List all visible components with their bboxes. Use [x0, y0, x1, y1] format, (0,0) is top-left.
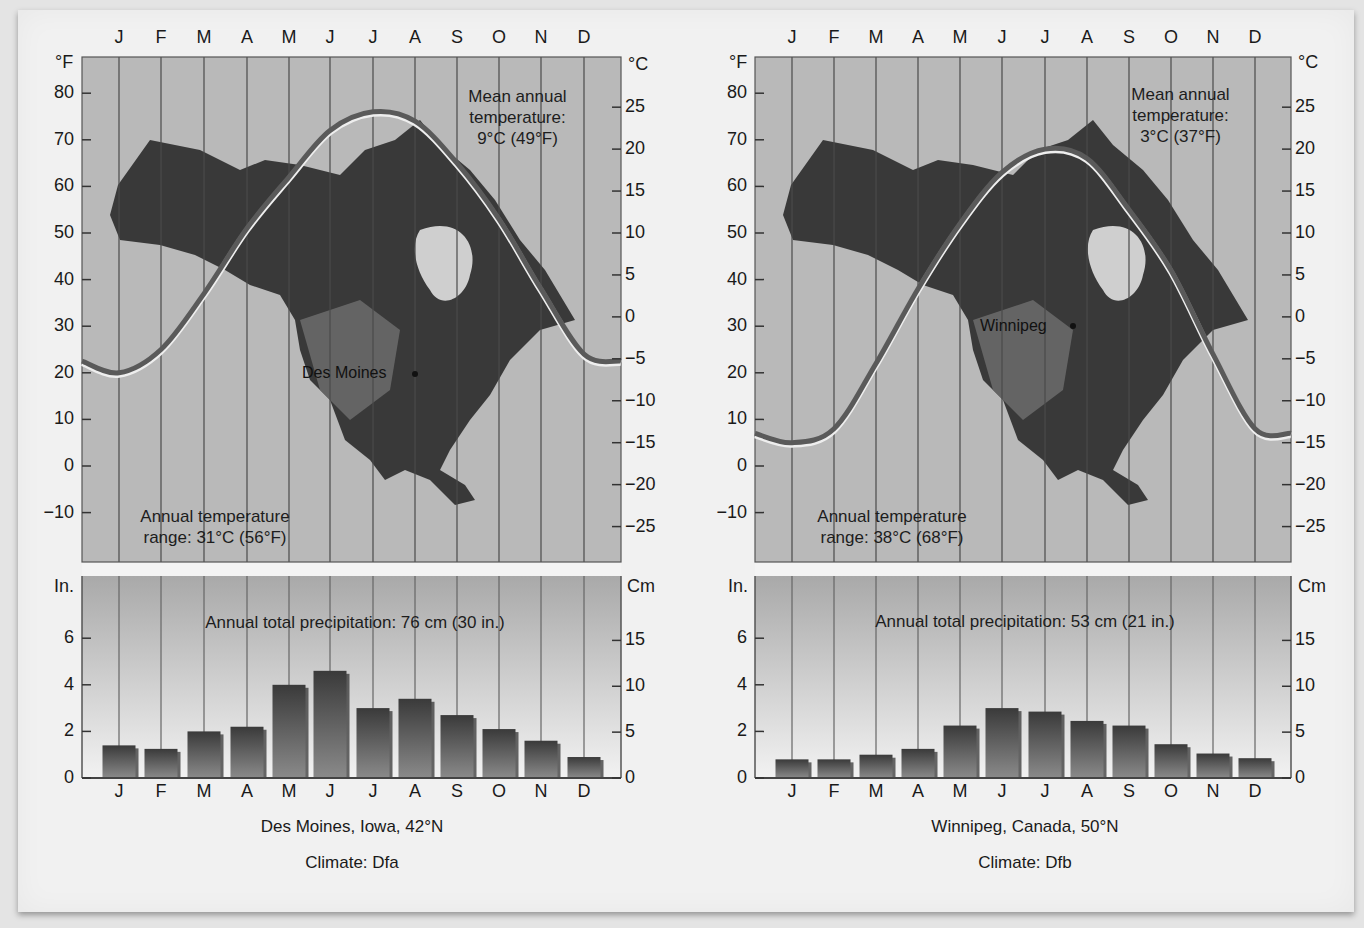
month-label-top: J	[990, 27, 1014, 48]
annual-temperature-range-label: Annual temperature range: 38°C (68°F)	[792, 506, 992, 548]
precipitation-bar	[776, 759, 809, 778]
month-label-top: O	[487, 27, 511, 48]
month-label-bottom: J	[107, 781, 131, 802]
temp-f-tick-label: 10	[34, 408, 74, 429]
precip-axis-unit-in: In.	[728, 576, 748, 597]
temp-c-tick-label: 5	[625, 264, 665, 285]
month-label-top: N	[529, 27, 553, 48]
temp-c-tick-label: 25	[625, 96, 665, 117]
month-label-bottom: M	[277, 781, 301, 802]
temp-f-tick-label: 60	[34, 175, 74, 196]
precip-in-tick-label: 6	[34, 627, 74, 648]
temp-f-tick-label: 70	[707, 129, 747, 150]
station-marker-icon	[1070, 323, 1076, 329]
month-label-bottom: O	[487, 781, 511, 802]
mean-annual-temperature-label: Mean annual temperature: 3°C (37°F)	[1103, 84, 1258, 147]
month-label-top: M	[948, 27, 972, 48]
month-label-bottom: J	[990, 781, 1014, 802]
precip-in-tick-label: 4	[707, 674, 747, 695]
month-label-top: J	[1033, 27, 1057, 48]
month-label-top: F	[149, 27, 173, 48]
temp-c-tick-label: −10	[625, 390, 665, 411]
temp-c-tick-label: 20	[1295, 138, 1335, 159]
precip-in-tick-label: 0	[707, 767, 747, 788]
precip-cm-tick-label: 0	[1295, 767, 1335, 788]
temp-c-tick-label: −25	[1295, 516, 1335, 537]
month-label-bottom: F	[822, 781, 846, 802]
temp-c-tick-label: −20	[1295, 474, 1335, 495]
temp-c-tick-label: −5	[1295, 348, 1335, 369]
month-label-bottom: D	[572, 781, 596, 802]
month-label-top: A	[403, 27, 427, 48]
temp-c-tick-label: −25	[625, 516, 665, 537]
temp-c-tick-label: 20	[625, 138, 665, 159]
temp-c-tick-label: 15	[1295, 180, 1335, 201]
temp-c-tick-label: −5	[625, 348, 665, 369]
temp-c-tick-label: 0	[625, 306, 665, 327]
month-label-top: D	[1243, 27, 1267, 48]
temp-f-tick-label: 20	[707, 362, 747, 383]
temp-f-tick-label: 10	[707, 408, 747, 429]
temp-f-tick-label: 80	[707, 82, 747, 103]
month-label-bottom: J	[318, 781, 342, 802]
temp-axis-unit-f: °F	[729, 52, 747, 73]
month-label-bottom: N	[1201, 781, 1225, 802]
month-label-top: J	[361, 27, 385, 48]
month-label-bottom: M	[948, 781, 972, 802]
temp-c-tick-label: 10	[1295, 222, 1335, 243]
temp-f-tick-label: 0	[34, 455, 74, 476]
month-label-bottom: O	[1159, 781, 1183, 802]
precip-cm-tick-label: 5	[1295, 721, 1335, 742]
month-label-top: D	[572, 27, 596, 48]
precipitation-bar	[1239, 758, 1272, 778]
month-label-top: F	[822, 27, 846, 48]
month-label-top: S	[1117, 27, 1141, 48]
temp-f-tick-label: 70	[34, 129, 74, 150]
precipitation-bar	[986, 708, 1019, 778]
month-label-top: M	[864, 27, 888, 48]
temp-c-tick-label: −10	[1295, 390, 1335, 411]
precip-cm-tick-label: 0	[625, 767, 665, 788]
temp-f-tick-label: 30	[34, 315, 74, 336]
temp-c-tick-label: −20	[625, 474, 665, 495]
precip-cm-tick-label: 15	[625, 629, 665, 650]
precipitation-bar	[944, 726, 977, 778]
month-label-bottom: S	[445, 781, 469, 802]
location-caption: Winnipeg, Canada, 50°N	[825, 817, 1225, 837]
month-label-bottom: M	[864, 781, 888, 802]
temp-c-tick-label: 5	[1295, 264, 1335, 285]
precip-cm-tick-label: 10	[625, 675, 665, 696]
month-label-top: J	[107, 27, 131, 48]
temp-c-tick-label: 10	[625, 222, 665, 243]
month-label-top: A	[1075, 27, 1099, 48]
temp-f-tick-label: 50	[34, 222, 74, 243]
temp-c-tick-label: −15	[1295, 432, 1335, 453]
precip-in-tick-label: 0	[34, 767, 74, 788]
month-label-bottom: S	[1117, 781, 1141, 802]
precip-in-tick-label: 2	[707, 720, 747, 741]
month-label-bottom: D	[1243, 781, 1267, 802]
month-label-bottom: F	[149, 781, 173, 802]
month-label-top: S	[445, 27, 469, 48]
temp-f-tick-label: 40	[34, 269, 74, 290]
precipitation-bar	[1113, 726, 1146, 778]
temp-axis-unit-c: °C	[1298, 52, 1318, 73]
precip-cm-tick-label: 5	[625, 721, 665, 742]
month-label-top: A	[906, 27, 930, 48]
temp-f-tick-label: 30	[707, 315, 747, 336]
precipitation-bar	[1197, 754, 1230, 778]
month-label-bottom: N	[529, 781, 553, 802]
month-label-bottom: J	[780, 781, 804, 802]
precipitation-plot-area	[755, 576, 1291, 778]
temp-f-tick-label: 50	[707, 222, 747, 243]
precipitation-bar	[1155, 744, 1188, 778]
month-label-top: J	[318, 27, 342, 48]
temp-c-tick-label: 15	[625, 180, 665, 201]
temp-c-tick-label: 0	[1295, 306, 1335, 327]
temp-f-tick-label: 80	[34, 82, 74, 103]
temp-f-tick-label: −10	[707, 502, 747, 523]
precip-cm-tick-label: 10	[1295, 675, 1335, 696]
temp-f-tick-label: 40	[707, 269, 747, 290]
climate-caption: Climate: Dfb	[825, 853, 1225, 873]
month-label-top: O	[1159, 27, 1183, 48]
